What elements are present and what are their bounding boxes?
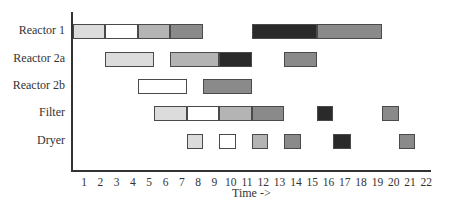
- x-tick-label: 2: [97, 176, 103, 188]
- y-category-label: Reactor 2b: [13, 78, 65, 93]
- x-axis-line: [71, 170, 431, 172]
- x-tick-label: 8: [195, 176, 201, 188]
- x-tick-label: 17: [339, 176, 351, 188]
- x-tick-label: 1: [81, 176, 87, 188]
- x-tick-label: 9: [212, 176, 218, 188]
- task-bar: [219, 52, 252, 67]
- x-tick-label: 19: [372, 176, 384, 188]
- task-bar: [203, 79, 252, 94]
- y-category-label: Filter: [39, 105, 65, 120]
- task-bar: [105, 52, 154, 67]
- x-tick-label: 14: [290, 176, 302, 188]
- y-category-label: Reactor 2a: [13, 51, 65, 66]
- x-tick-label: 3: [114, 176, 120, 188]
- x-tick-label: 20: [388, 176, 400, 188]
- task-bar: [187, 134, 203, 149]
- x-tick-label: 22: [421, 176, 433, 188]
- x-axis-label: Time ->: [232, 186, 271, 201]
- x-tick-label: 6: [163, 176, 169, 188]
- x-tick-label: 7: [179, 176, 185, 188]
- task-bar: [187, 106, 220, 121]
- x-tick-label: 15: [306, 176, 318, 188]
- task-bar: [382, 106, 398, 121]
- task-bar: [399, 134, 415, 149]
- task-bar: [154, 106, 187, 121]
- task-bar: [219, 134, 235, 149]
- x-tick-label: 16: [323, 176, 335, 188]
- task-bar: [170, 52, 219, 67]
- task-bar: [219, 106, 252, 121]
- task-bar: [317, 106, 333, 121]
- y-category-label: Dryer: [37, 133, 65, 148]
- task-bar: [138, 79, 187, 94]
- task-bar: [170, 24, 203, 39]
- task-bar: [105, 24, 138, 39]
- x-tick-label: 13: [274, 176, 286, 188]
- x-tick-label: 18: [355, 176, 367, 188]
- task-bar: [284, 52, 317, 67]
- task-bar: [138, 24, 171, 39]
- x-tick-label: 5: [146, 176, 152, 188]
- task-bar: [252, 134, 268, 149]
- task-bar: [317, 24, 382, 39]
- task-bar: [252, 106, 285, 121]
- task-bar: [333, 134, 351, 149]
- task-bar: [73, 24, 106, 39]
- task-bar: [284, 134, 300, 149]
- x-tick-label: 21: [404, 176, 416, 188]
- gantt-chart: Reactor 1Reactor 2aReactor 2bFilterDryer…: [0, 0, 450, 202]
- task-bar: [252, 24, 317, 39]
- x-tick-label: 4: [130, 176, 136, 188]
- y-category-label: Reactor 1: [19, 23, 65, 38]
